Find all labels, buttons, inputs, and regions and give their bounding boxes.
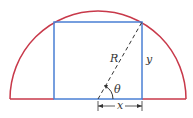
label-radius: R: [109, 52, 118, 65]
label-angle: θ: [114, 83, 121, 96]
semicircle: [10, 11, 186, 99]
label-height: y: [145, 53, 153, 66]
label-half-width: x: [117, 99, 124, 112]
dimension-arrow-left-icon: [98, 104, 103, 108]
inscribed-rectangle: [54, 22, 142, 99]
diagram-canvas: R y θ x: [0, 0, 193, 118]
dimension-arrow-right-icon: [137, 104, 142, 108]
